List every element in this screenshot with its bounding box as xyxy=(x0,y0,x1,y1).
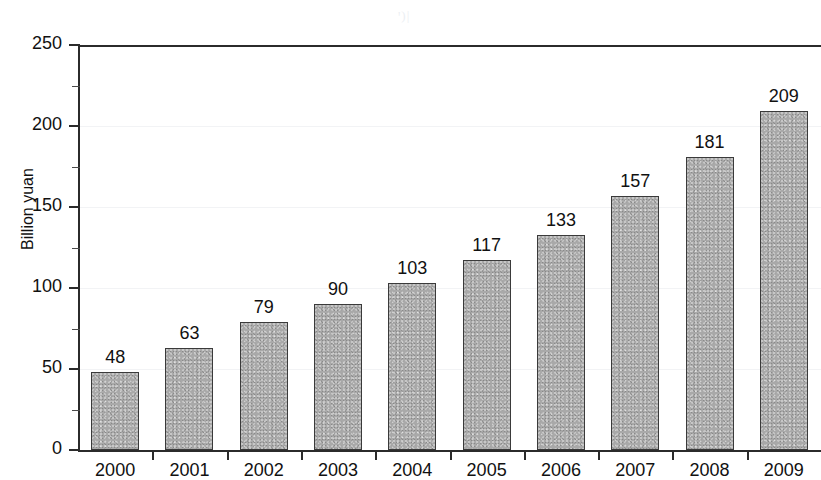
bar-chart-figure: ꞌ)| Billion yuan 050100150200250 2000200… xyxy=(0,0,821,480)
x-tick xyxy=(747,452,749,460)
y-tick-minor xyxy=(72,248,80,249)
x-tick-label: 2009 xyxy=(739,460,821,480)
y-axis-line xyxy=(78,45,80,452)
x-tick xyxy=(450,452,452,460)
y-tick-label: 200 xyxy=(0,114,62,135)
bar-value-label: 63 xyxy=(149,323,229,344)
bar[interactable] xyxy=(388,283,436,450)
y-tick-major xyxy=(69,44,80,46)
y-tick-major xyxy=(69,206,80,208)
bar-value-label: 133 xyxy=(521,210,601,231)
bar-value-label: 181 xyxy=(670,132,750,153)
bar[interactable] xyxy=(611,196,659,450)
y-tick-label: 100 xyxy=(0,276,62,297)
x-tick xyxy=(227,452,229,460)
y-tick-minor xyxy=(72,167,80,168)
y-tick-major xyxy=(69,287,80,289)
plot-frame-top xyxy=(78,45,821,47)
bar-value-label: 48 xyxy=(75,347,155,368)
bar[interactable] xyxy=(314,304,362,450)
x-tick xyxy=(375,452,377,460)
y-tick-label: 50 xyxy=(0,357,62,378)
y-tick-minor xyxy=(72,86,80,87)
y-tick-label: 150 xyxy=(0,195,62,216)
scan-artifact: ꞌ)| xyxy=(398,8,426,26)
bar-value-label: 90 xyxy=(298,279,378,300)
bar[interactable] xyxy=(165,348,213,450)
y-tick-minor xyxy=(72,329,80,330)
bar-value-label: 209 xyxy=(744,86,821,107)
bar-value-label: 157 xyxy=(595,171,675,192)
bar-value-label: 103 xyxy=(372,258,452,279)
y-tick-major xyxy=(69,449,80,451)
bar-value-label: 79 xyxy=(224,297,304,318)
y-tick-label: 250 xyxy=(0,33,62,54)
bar[interactable] xyxy=(537,235,585,450)
bar[interactable] xyxy=(760,111,808,450)
y-tick-minor xyxy=(72,410,80,411)
y-tick-label: 0 xyxy=(0,438,62,459)
bar[interactable] xyxy=(91,372,139,450)
x-tick xyxy=(524,452,526,460)
x-tick xyxy=(672,452,674,460)
y-tick-major xyxy=(69,125,80,127)
x-tick xyxy=(301,452,303,460)
x-tick xyxy=(598,452,600,460)
x-tick xyxy=(152,452,154,460)
bar-value-label: 117 xyxy=(447,235,527,256)
y-tick-major xyxy=(69,368,80,370)
bar[interactable] xyxy=(240,322,288,450)
bar[interactable] xyxy=(463,260,511,450)
bar[interactable] xyxy=(686,157,734,450)
gridline xyxy=(80,126,821,127)
